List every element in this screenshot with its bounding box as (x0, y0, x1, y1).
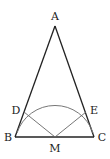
segment-me (55, 112, 86, 137)
label-m: M (49, 142, 60, 155)
label-d: D (12, 104, 21, 117)
side-ac (55, 26, 94, 137)
label-a: A (50, 10, 60, 23)
arc-center-m (17, 105, 93, 133)
label-e: E (90, 104, 98, 117)
triangle-diagram: A B C M D E (0, 0, 110, 159)
segment-md (24, 112, 55, 137)
label-b: B (4, 131, 12, 144)
label-c: C (98, 131, 106, 144)
